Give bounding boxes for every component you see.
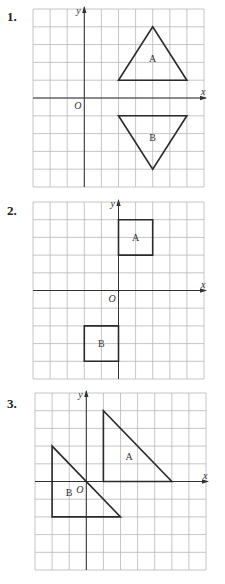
coordinate-grid-2: xyOAB [33,198,207,379]
coordinate-grid-1: xyOAB [33,5,207,187]
y-axis-arrow-icon [84,390,88,397]
y-axis-arrow-icon [82,6,86,13]
y-axis-label: y [110,198,116,209]
shape-label-b: B [66,487,73,498]
coordinate-grid-3: xyOAB [35,389,209,570]
shape-label-a: A [149,53,157,64]
x-axis-label: x [202,470,208,481]
shape-label-a: A [132,232,140,243]
y-axis-label: y [77,389,83,400]
shape-label-a: A [125,451,133,462]
y-axis-arrow-icon [116,199,120,206]
x-axis-label: x [200,86,206,97]
origin-label: O [109,293,116,304]
origin-label: O [74,100,81,111]
coordinate-grids: xyOABxyOABxyOAB [0,0,225,584]
x-axis-label: x [200,279,206,290]
shape-label-b: B [98,338,105,349]
origin-label: O [76,484,83,495]
y-axis-label: y [75,5,81,16]
shape-label-b: B [149,132,156,143]
